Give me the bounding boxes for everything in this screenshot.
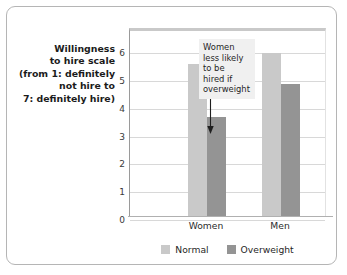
y-axis-title: Willingness to hire scale (from 1: defin…: [11, 43, 115, 105]
y-axis-tick-label: 6: [119, 48, 125, 58]
x-axis-line: [128, 216, 333, 218]
y-axis-title-line: to hire scale: [11, 55, 115, 67]
y-axis-tick-label: 1: [119, 187, 125, 197]
legend-label: Overweight: [241, 244, 294, 255]
legend-item-overweight[interactable]: Overweight: [227, 244, 294, 255]
annotation-line: less likely: [203, 53, 252, 64]
y-axis-title-line: not hire to: [11, 80, 115, 92]
x-axis-label-women: Women: [171, 220, 241, 231]
y-axis-tick-label: 2: [119, 159, 125, 169]
y-axis-title-line: 7: definitely hire): [11, 93, 115, 105]
legend-item-normal[interactable]: Normal: [161, 244, 208, 255]
annotation-line: hired if: [203, 74, 252, 85]
down-arrow-icon: [206, 99, 215, 135]
y-axis-tick-label: 5: [119, 76, 125, 86]
y-axis-tick-label: 3: [119, 132, 125, 142]
legend-label: Normal: [175, 244, 208, 255]
chart-card: Willingness to hire scale (from 1: defin…: [6, 6, 337, 265]
legend-swatch-icon: [161, 245, 170, 254]
y-axis-tick-label: 0: [119, 215, 125, 225]
annotation-line: Women: [203, 42, 252, 53]
y-axis-title-line: (from 1: definitely: [11, 68, 115, 80]
chart-legend: NormalOverweight: [129, 244, 326, 255]
y-axis-title-line: Willingness: [11, 43, 115, 55]
annotation-line: overweight: [203, 84, 252, 95]
annotation-callout: Women less likely to be hired if overwei…: [199, 39, 255, 99]
bar-men-overweight: [281, 84, 300, 217]
legend-swatch-icon: [227, 245, 236, 254]
annotation-line: to be: [203, 63, 252, 74]
y-axis-tick-label: 4: [119, 104, 125, 114]
bar-men-normal: [262, 53, 281, 217]
x-axis-label-men: Men: [245, 220, 315, 231]
